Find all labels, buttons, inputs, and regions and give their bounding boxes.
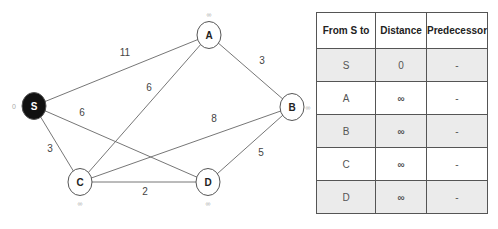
table-row: D ∞ - (317, 181, 488, 214)
cell-predecessor: - (427, 49, 488, 82)
table-header-row: From S to Distance Predecessor (317, 13, 488, 49)
cell-predecessor: - (427, 82, 488, 115)
header-predecessor: Predecessor (427, 13, 488, 49)
edge-weight-label: 3 (259, 55, 265, 66)
node-distance-label: ∞ (206, 200, 211, 207)
cell-node: C (317, 148, 376, 181)
cell-predecessor: - (427, 181, 488, 214)
node-label: D (204, 177, 211, 188)
header-from: From S to (317, 13, 376, 49)
edge-weight-label: 5 (258, 147, 264, 158)
edge-weight-label: 11 (120, 47, 131, 58)
node-label: S (31, 101, 38, 112)
edge-S-A (34, 35, 209, 106)
node-distance-label: ∞ (207, 11, 212, 18)
header-distance: Distance (376, 13, 427, 49)
table-row: B ∞ - (317, 115, 488, 148)
node-distance-label: ∞ (78, 200, 83, 207)
edge-weight-label: 6 (79, 107, 85, 118)
graph-diagram: 116368235 S0A∞B∞C∞D∞ (0, 0, 315, 229)
cell-distance: 0 (376, 49, 427, 82)
table-row: S 0 - (317, 49, 488, 82)
node-label: C (76, 177, 83, 188)
node-distance-label: ∞ (306, 104, 311, 111)
table-row: C ∞ - (317, 148, 488, 181)
edge-S-D (34, 106, 208, 182)
edge-weight-label: 3 (47, 143, 53, 154)
node-label: B (288, 102, 295, 113)
edge-weight-label: 6 (146, 82, 152, 93)
node-distance-label: 0 (12, 103, 16, 110)
cell-node: A (317, 82, 376, 115)
cell-distance: ∞ (376, 82, 427, 115)
edge-C-A (80, 35, 209, 182)
cell-node: S (317, 49, 376, 82)
graph-nodes: S0A∞B∞C∞D∞ (12, 11, 310, 207)
distance-table: From S to Distance Predecessor S 0 - A ∞… (316, 12, 488, 214)
cell-node: D (317, 181, 376, 214)
edge-A-B (209, 35, 292, 107)
node-label: A (205, 30, 212, 41)
edge-C-B (80, 107, 292, 182)
edge-D-B (208, 107, 292, 182)
edge-weight-label: 8 (211, 113, 217, 124)
cell-predecessor: - (427, 115, 488, 148)
edge-weight-label: 2 (142, 186, 148, 197)
cell-node: B (317, 115, 376, 148)
table-row: A ∞ - (317, 82, 488, 115)
cell-distance: ∞ (376, 148, 427, 181)
cell-predecessor: - (427, 148, 488, 181)
cell-distance: ∞ (376, 181, 427, 214)
cell-distance: ∞ (376, 115, 427, 148)
